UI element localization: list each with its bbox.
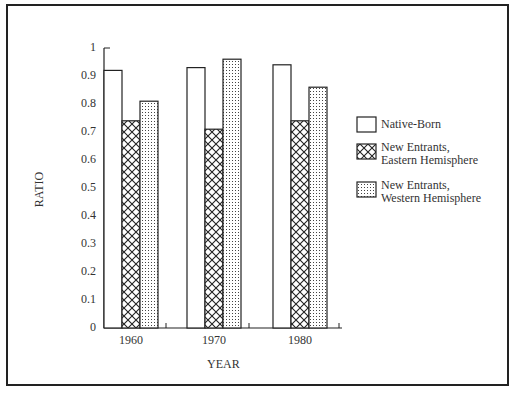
y-axis-label: RATIO: [32, 172, 47, 207]
y-tick-label: 1: [66, 40, 96, 55]
bar: [223, 59, 241, 328]
legend-item: New Entrants,Eastern Hemisphere: [381, 141, 478, 167]
x-tick-label: 1980: [280, 333, 320, 348]
y-tick-label: 0.9: [66, 68, 96, 83]
y-tick-label: 0.4: [66, 208, 96, 223]
legend-item: New Entrants,Western Hemisphere: [381, 179, 481, 205]
bar: [140, 101, 158, 328]
bar: [122, 121, 140, 328]
y-tick-label: 0.8: [66, 96, 96, 111]
legend-swatches: [357, 117, 376, 197]
y-tick-label: 0.3: [66, 236, 96, 251]
bar: [273, 65, 291, 328]
y-tick-label: 0: [66, 320, 96, 335]
legend-item: Native-Born: [381, 118, 441, 131]
bar: [291, 121, 309, 328]
x-tick-label: 1960: [111, 333, 151, 348]
y-tick-label: 0.2: [66, 264, 96, 279]
y-tick-label: 0.7: [66, 124, 96, 139]
y-tick-label: 0.1: [66, 292, 96, 307]
bar: [309, 87, 327, 328]
x-axis-label: YEAR: [207, 357, 240, 372]
bar: [104, 70, 122, 328]
bars: [104, 59, 327, 328]
x-tick-label: 1970: [194, 333, 234, 348]
y-tick-label: 0.5: [66, 180, 96, 195]
bar: [187, 68, 205, 328]
y-tick-label: 0.6: [66, 152, 96, 167]
bar: [205, 129, 223, 328]
